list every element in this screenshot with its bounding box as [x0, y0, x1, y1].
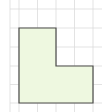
l-shaped-region: [19, 28, 93, 103]
grid-figure: ): [0, 0, 102, 112]
grid-diagram: [0, 0, 102, 112]
